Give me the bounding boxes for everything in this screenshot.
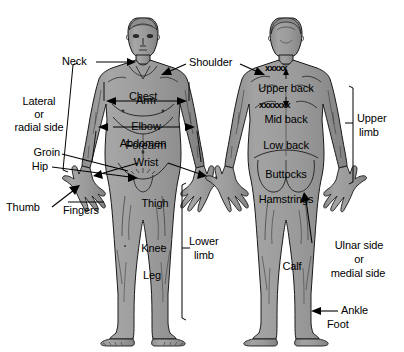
label-ulnar-side-line1: Ulnar side — [316, 240, 402, 252]
label-shoulder: Shoulder — [189, 57, 232, 69]
label-lower-limb-line1: Lower — [189, 236, 218, 248]
label-wrist: Wrist — [125, 157, 167, 169]
label-hip: Hip — [4, 161, 48, 173]
label-lateral-side-line2: or — [8, 109, 70, 121]
label-upper-limb-line1: Upper — [357, 113, 386, 125]
body-figures-illustration — [0, 0, 404, 352]
divider-mid-back: xxxxxxx — [259, 100, 290, 110]
label-ankle: Ankle — [341, 305, 368, 317]
anatomy-diagram-page: Neck Lateral or radial side Groin Hip Th… — [0, 0, 404, 352]
label-groin: Groin — [4, 147, 60, 159]
label-lower-limb-line2: limb — [194, 250, 214, 262]
label-lateral-side-line1: Lateral — [8, 96, 70, 108]
label-upper-limb-line2: limb — [359, 127, 379, 139]
divider-upper-back: xxxxx — [265, 63, 287, 73]
label-hamstrings: Hamstrings — [246, 194, 326, 206]
label-elbow: Elbow — [123, 121, 169, 133]
label-upper-back: Upper back — [250, 83, 322, 95]
label-lateral-side-line3: radial side — [1, 122, 77, 134]
label-foot: Foot — [327, 319, 349, 331]
label-buttocks: Buttocks — [254, 169, 318, 181]
label-calf: Calf — [272, 261, 312, 273]
label-leg: Leg — [133, 270, 171, 282]
label-ulnar-side-line2: or — [316, 254, 402, 266]
label-chest: Chest — [113, 91, 173, 103]
label-knee: Knee — [130, 243, 178, 255]
label-thumb: Thumb — [6, 202, 40, 214]
label-thigh: Thigh — [130, 198, 180, 210]
label-fingers: Fingers — [63, 205, 99, 217]
label-neck: Neck — [62, 56, 87, 68]
label-mid-back: Mid back — [254, 114, 318, 126]
label-abdomen: Abdomen — [106, 138, 180, 150]
label-low-back: Low back — [254, 140, 318, 152]
label-ulnar-side-line3: medial side — [312, 268, 404, 280]
